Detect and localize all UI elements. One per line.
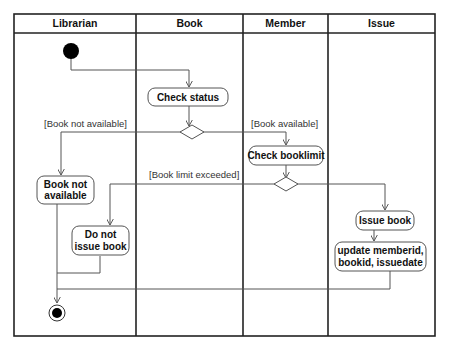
action-label-line-1: update memberid, xyxy=(337,245,423,256)
flow-start-to-check-status xyxy=(71,58,189,87)
action-label: Check booklimit xyxy=(247,150,325,161)
lane-title-book: Book xyxy=(176,17,202,29)
action-do-not-issue-book: Do not issue book xyxy=(72,226,129,255)
initial-node xyxy=(63,43,79,59)
action-label-line-2: available xyxy=(44,190,87,201)
action-label: Check status xyxy=(157,92,220,103)
decision-node-availability xyxy=(180,125,204,139)
lane-title-member: Member xyxy=(265,17,305,29)
lane-title-librarian: Librarian xyxy=(53,17,98,29)
decision-node-booklimit xyxy=(274,177,298,191)
guard-book-not-available: [Book not available] xyxy=(44,118,127,129)
final-node xyxy=(49,305,65,321)
guard-book-limit-exceeded: [Book limit exceeded] xyxy=(149,169,239,180)
lane-title-issue: Issue xyxy=(368,17,395,29)
action-update-record: update memberid, bookid, issuedate xyxy=(335,242,426,271)
action-label-line-1: Do not xyxy=(85,229,117,240)
action-label: Issue book xyxy=(359,215,412,226)
guard-book-available: [Book available] xyxy=(251,118,318,129)
flow-decision-to-issue-book xyxy=(295,184,385,210)
action-check-status: Check status xyxy=(148,88,228,106)
flow-decision-to-do-not-issue xyxy=(110,184,277,225)
flow-update-to-end xyxy=(57,271,390,289)
activity-diagram: Librarian Book Member Issue Check status xyxy=(0,0,449,352)
action-label-line-1: Book not xyxy=(44,179,88,190)
action-label-line-2: issue book xyxy=(74,241,127,252)
action-label-line-2: bookid, issuedate xyxy=(338,257,423,268)
flow-do-not-issue-to-end xyxy=(57,256,100,273)
action-book-not-available: Book not available xyxy=(37,176,94,204)
action-check-booklimit: Check booklimit xyxy=(247,146,325,165)
action-issue-book: Issue book xyxy=(356,211,414,230)
